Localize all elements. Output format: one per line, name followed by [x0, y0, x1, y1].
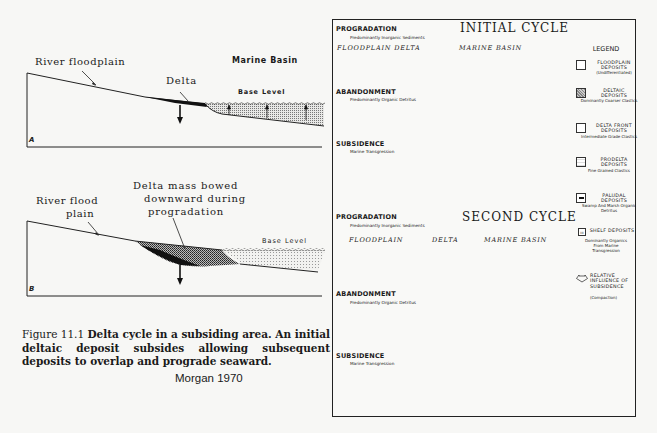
panel-a-letter: A	[29, 136, 34, 144]
stage-subtitle: Predominantly Organic Detritus	[350, 97, 416, 102]
legend-item-delta-front: DELTA FRONT DEPOSITS Intermediate Grade …	[576, 123, 636, 151]
label-delta-mass-line1: Delta mass bowed	[133, 180, 238, 191]
region-label: FLOODPLAIN DELTA	[337, 44, 421, 52]
stage-subtitle: Marine Transgression	[350, 361, 394, 366]
stage-subtitle: Marine Transgression	[350, 149, 394, 154]
legend-item-floodplain: FLOODPLAIN DEPOSITS (Undifferentiated)	[576, 60, 636, 86]
region-label: DELTA	[432, 236, 458, 244]
figure-caption: Figure 11.1 Delta cycle in a subsiding a…	[22, 328, 330, 369]
legend-title: LEGEND	[574, 45, 638, 53]
swatch-stipple-icon	[576, 88, 586, 98]
cycle-title-second: SECOND CYCLE	[462, 210, 577, 224]
stage-subtitle: Predominantly Inorganic Sediments	[350, 35, 425, 40]
region-label: MARINE BASIN	[484, 236, 547, 244]
stage-title: ABANDONMENT	[336, 290, 396, 298]
label-base-level-b: Base Level	[262, 237, 307, 245]
legend-item-subsidence: RELATIVE INFLUENCE OF SUBSIDENCE (Compac…	[576, 273, 636, 309]
label-base-level-a: Base Level	[238, 88, 285, 96]
panel-b-letter: B	[29, 285, 34, 293]
panel-b-diagram	[27, 218, 325, 296]
label-river-flood-line1: River flood	[36, 195, 98, 206]
swatch-light-stipple-icon	[576, 157, 586, 167]
stage-title: SUBSIDENCE	[336, 352, 385, 360]
label-delta: Delta	[166, 75, 197, 86]
figure-number: Figure 11.1	[22, 328, 84, 340]
legend-item-prodelta: PRODELTA DEPOSITS Fine Grained Clastics	[576, 157, 636, 185]
legend-item-deltaic: DELTAIC DEPOSITS Dominantly Coarser Clas…	[576, 88, 636, 116]
stage-subtitle: Predominantly Inorganic Sediments	[350, 223, 425, 228]
label-river-flood-line2: plain	[66, 208, 94, 219]
swatch-tick-icon: ııı	[578, 228, 586, 236]
stage-title: SUBSIDENCE	[336, 140, 385, 148]
label-delta-mass-line2: downward during	[144, 193, 246, 204]
cycle-title-initial: INITIAL CYCLE	[460, 21, 569, 35]
swatch-dash-icon	[576, 193, 586, 203]
stage-title: PROGRADATION	[336, 213, 397, 221]
swatch-blank-icon	[576, 60, 586, 70]
stage-subtitle: Predominantly Organic Detritus	[350, 300, 416, 305]
label-marine-basin: Marine Basin	[232, 56, 298, 65]
swatch-blank-icon	[576, 123, 586, 133]
figure-credit: Morgan 1970	[175, 372, 243, 384]
label-river-floodplain: River floodplain	[35, 56, 125, 67]
legend-item-shelf: ııı SHELF DEPOSITS Dominantly Organics F…	[576, 228, 636, 264]
stage-title: PROGRADATION	[336, 25, 397, 33]
subsidence-arrow-icon	[576, 275, 588, 283]
legend-item-paludal: PALUDAL DEPOSITS Swamp And Marsh Organic…	[576, 193, 636, 219]
region-label: FLOODPLAIN	[349, 236, 403, 244]
region-label: MARINE BASIN	[459, 44, 522, 52]
label-delta-mass-line3: progradation	[148, 206, 224, 217]
stage-title: ABANDONMENT	[336, 88, 396, 96]
